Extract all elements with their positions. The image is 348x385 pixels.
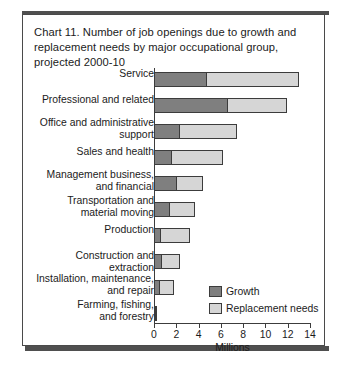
bar-segment-growth [154,72,207,87]
bar-track [154,124,310,139]
y-axis-line [154,68,155,323]
plot-area: ServiceProfessional and relatedOffice an… [23,68,326,345]
x-axis-tick [221,323,222,328]
bar-track [154,254,310,269]
bar-row: Transportation and material moving [23,198,326,224]
bar-row-label: Service [36,68,154,80]
bar-row-label: Installation, maintenance, and repair [36,273,154,296]
bar-row-label: Office and administrative support [36,117,154,140]
x-axis-tick [288,323,289,328]
bar-row-label: Production [36,224,154,236]
bar-row-label: Transportation and material moving [36,195,154,218]
bar-segment-replacement [155,306,157,321]
bar-track [154,98,310,113]
legend-label-replacement: Replacement needs [226,303,318,314]
legend-item-growth: Growth [209,284,318,299]
bar-track [154,202,310,217]
x-axis-tick-label: 4 [187,329,211,340]
x-axis-tick [199,323,200,328]
x-axis-tick-label: 8 [231,329,255,340]
legend-label-growth: Growth [226,286,260,297]
bar-row: Office and administrative support [23,120,326,146]
bar-row: Service [23,68,326,94]
chart-card: Chart 11. Number of job openings due to … [22,14,325,346]
chart-title: Chart 11. Number of job openings due to … [34,25,314,70]
x-axis-tick-label: 2 [164,329,188,340]
legend: Growth Replacement needs [209,284,318,318]
bar-track [154,150,310,165]
x-axis-tick [310,323,311,328]
legend-swatch-growth [209,286,222,297]
bar-row-label: Management business, and financial [36,169,154,192]
legend-swatch-replacement [209,303,222,314]
bar-segment-replacement [179,124,237,139]
bar-row-label: Construction and extraction [36,250,154,273]
bar-segment-growth [154,150,172,165]
bar-row-label: Sales and health [36,146,154,158]
bar-row-label: Professional and related [36,94,154,106]
bar-segment-replacement [227,98,287,113]
screenshot-root: Chart 11. Number of job openings due to … [0,0,348,385]
bar-segment-replacement [169,202,196,217]
legend-item-replacement: Replacement needs [209,301,318,316]
x-axis-tick [176,323,177,328]
x-axis-tick-label: 0 [142,329,166,340]
bar-segment-growth [154,98,228,113]
bar-track [154,176,310,191]
bar-segment-replacement [161,254,180,269]
bar-track [154,72,310,87]
bar-segment-replacement [171,150,223,165]
x-axis-tick-label: 12 [276,329,300,340]
bar-segment-replacement [206,72,298,87]
bar-track [154,228,310,243]
bar-segment-growth [154,202,170,217]
bar-row: Production [23,224,326,250]
x-axis-tick-label: 6 [209,329,233,340]
x-axis-tick-label: 14 [298,329,322,340]
x-axis-tick [265,323,266,328]
bar-segment-replacement [159,280,175,295]
bar-segment-growth [154,176,177,191]
bar-segment-replacement [160,228,190,243]
x-axis-title: Millions [154,342,311,353]
x-axis-tick [154,323,155,328]
x-axis-tick [243,323,244,328]
x-axis-tick-label: 10 [253,329,277,340]
bar-row-label: Farming, fishing, and forestry [36,299,154,322]
bar-segment-growth [154,124,180,139]
bar-segment-replacement [176,176,203,191]
